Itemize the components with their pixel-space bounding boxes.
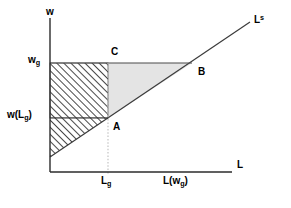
labour-supply-figure: w L Ls wg w(Lg) Lg L(wg) A B C [0,0,291,208]
diagram-canvas [0,0,291,208]
y-tick-wlg-base: w(L [7,109,24,120]
point-label-b: B [198,67,205,77]
x-tick-label-l-of-wg: L(wg) [163,176,188,187]
y-tick-label-w-of-lg: w(Lg) [7,110,32,121]
y-tick-label-wg: wg [28,55,40,66]
y-tick-wlg-tail: ) [29,109,32,120]
x-tick-lwg-base: L(w [163,175,180,186]
x-tick-lwg-tail: ) [185,175,188,186]
supply-curve-label-sup: s [260,13,264,22]
supply-curve-label: Ls [254,14,264,25]
x-tick-label-lg: Lg [101,176,112,187]
y-tick-wg-sub: g [36,58,40,67]
point-label-a: A [113,122,120,132]
y-axis-label: w [46,7,54,17]
x-axis-label: L [237,160,243,170]
point-label-c: C [111,47,118,57]
wage-bill-rectangle [50,63,108,118]
y-tick-wg-base: w [28,54,36,65]
x-tick-lg-sub: g [107,179,111,188]
